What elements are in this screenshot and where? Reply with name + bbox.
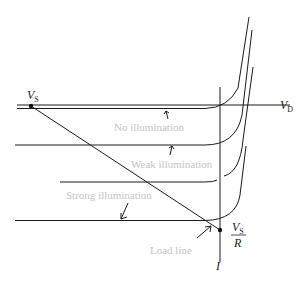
label-no-illumination: No illumination (114, 121, 184, 133)
vd-axis-label: VD (280, 98, 293, 114)
i-axis-label: I (216, 259, 220, 274)
arrow-load-line (197, 226, 211, 238)
arrow-no-illumination (164, 111, 169, 119)
label-weak-illumination: Weak illumination (131, 158, 212, 170)
label-strong-illumination: Strong illumination (66, 189, 152, 201)
curve-strong-illumination (60, 180, 217, 182)
vs-over-r-point (218, 228, 222, 232)
vs-label: VS (27, 88, 39, 104)
arrow-strong-illumination (121, 203, 128, 219)
curve-no-illumination (17, 17, 249, 109)
photodiode-iv-diagram: VS VD I VS R No illumination Weak illumi… (0, 0, 307, 283)
vsr-denominator: R (234, 236, 241, 251)
arrow-weak-illumination (169, 146, 174, 155)
label-load-line: Load line (150, 244, 192, 256)
diagram-canvas (0, 0, 307, 283)
vs-point (29, 104, 33, 108)
vsr-numerator: VS (232, 220, 244, 236)
